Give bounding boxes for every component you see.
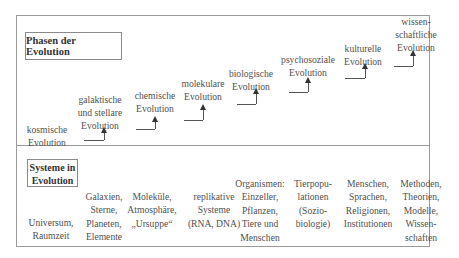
phase-label-cosmic: kosmische Evolution — [22, 123, 72, 149]
arrow-up-icon — [410, 50, 416, 56]
arrow-up-icon — [253, 88, 259, 94]
phase-label-biological: biologische Evolution — [225, 67, 277, 93]
phases-title: Phasen der Evolution — [26, 35, 121, 57]
system-label-universe: Universum, Raumzeit — [20, 216, 82, 243]
phase-label-psychosocial: psychosoziale Evolution — [277, 53, 339, 79]
arrow-up-icon — [305, 77, 311, 83]
arrow-up-icon — [200, 104, 206, 110]
section-divider — [16, 145, 430, 146]
arrow-up-icon — [362, 63, 368, 69]
arrow-up-icon — [101, 127, 107, 133]
system-label-methods: Methoden, Theorien, Modelle, Wissen- sch… — [393, 177, 449, 244]
arrow-up-icon — [152, 116, 158, 122]
phase-label-scientific: wissen- schaftliche Evolution — [390, 15, 442, 54]
system-label-molecules: Moleküle, Atmosphäre, „Ursuppe“ — [118, 190, 186, 230]
systems-title-box: Systeme in Evolution — [27, 159, 78, 187]
phase-label-chemical: chemische Evolution — [130, 89, 180, 115]
system-label-humans: Menschen, Sprachen, Religionen, Institut… — [336, 177, 400, 231]
system-label-animal-populations: Tierpopu- lationen (Sozio- biologie) — [286, 177, 340, 231]
phase-label-molecular: molekulare Evolution — [178, 77, 228, 103]
system-label-organisms: Organismen: Einzeller, Pflanzen, Tiere u… — [228, 177, 292, 244]
phases-title-box: Phasen der Evolution — [25, 32, 122, 60]
systems-title: Systeme in Evolution — [30, 162, 76, 186]
phase-label-galactic: galaktische und stellare Evolution — [74, 93, 126, 132]
